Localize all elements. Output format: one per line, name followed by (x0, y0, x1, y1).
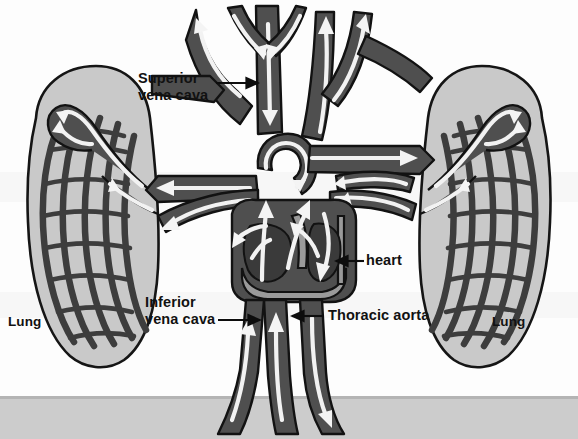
label-superior-vena-cava: Superior vena cava (138, 70, 208, 104)
label-lung-right: Lung (492, 314, 525, 330)
label-lung-left: Lung (8, 314, 41, 330)
label-heart: heart (366, 252, 402, 269)
label-inferior-vena-cava: Inferior vena cava (145, 294, 215, 328)
right-lung (419, 66, 550, 367)
heart (232, 200, 356, 302)
heart-left-chamber (244, 224, 292, 282)
label-thoracic-aorta: Thoracic aorta (328, 307, 429, 324)
left-lung (27, 66, 158, 367)
figure-canvas: .vsl { fill:#4f4f4f; stroke:#121212; str… (0, 0, 578, 439)
circulation-diagram: .vsl { fill:#4f4f4f; stroke:#121212; str… (0, 0, 578, 439)
